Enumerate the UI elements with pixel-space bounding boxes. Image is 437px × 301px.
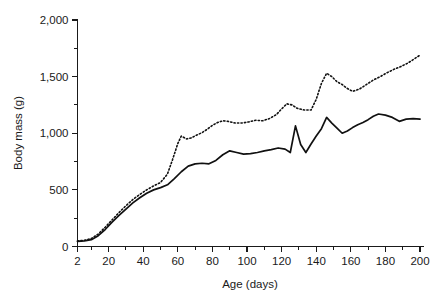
- x-tick-label: 200: [410, 255, 429, 267]
- x-tick-label: 100: [237, 255, 256, 267]
- x-tick-label: 40: [137, 255, 150, 267]
- y-tick-label: 1,000: [40, 127, 69, 139]
- x-tick-label: 80: [206, 255, 219, 267]
- data-series: [78, 55, 421, 241]
- axes: [78, 20, 424, 247]
- y-tick-label: 1,500: [40, 71, 69, 83]
- series-solid-line: [78, 114, 421, 241]
- x-tick-label: 160: [341, 255, 360, 267]
- y-tick-label: 0: [62, 241, 68, 253]
- x-tick-label: 180: [376, 255, 395, 267]
- y-axis-tick-labels: 05001,0001,5002,000: [40, 14, 69, 253]
- tick-marks: [72, 20, 420, 252]
- x-axis-tick-labels: 220406080100120140160180200: [74, 255, 429, 267]
- y-tick-label: 2,000: [40, 14, 69, 26]
- y-axis-title: Body mass (g): [12, 96, 24, 170]
- chart-figure: 220406080100120140160180200 05001,0001,5…: [0, 0, 437, 301]
- x-tick-label: 20: [102, 255, 115, 267]
- y-tick-label: 500: [49, 184, 68, 196]
- x-tick-label: 2: [74, 255, 80, 267]
- series-dotted-line: [78, 55, 421, 241]
- chart-canvas: 220406080100120140160180200 05001,0001,5…: [0, 0, 437, 301]
- x-tick-label: 120: [272, 255, 291, 267]
- x-tick-label: 140: [307, 255, 326, 267]
- x-axis-title: Age (days): [222, 278, 278, 290]
- x-tick-label: 60: [171, 255, 184, 267]
